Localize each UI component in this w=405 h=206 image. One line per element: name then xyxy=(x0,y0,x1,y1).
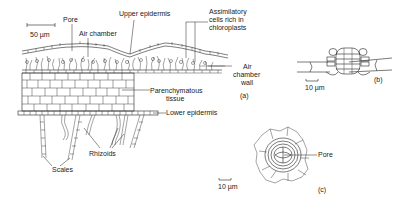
lower-epidermis xyxy=(18,111,158,115)
label-parenchyma-1: Parenchymatous xyxy=(150,87,203,95)
marchantia-thallus-diagram: 50 µm xyxy=(0,0,405,206)
scale-label-a: 50 µm xyxy=(30,31,50,39)
leader-lines-a xyxy=(43,20,232,166)
label-assimilatory-3: chloroplasts xyxy=(209,24,247,32)
label-lower-epidermis: Lower epidermis xyxy=(166,109,218,117)
label-assimilatory-2: cells rich in xyxy=(209,16,244,23)
scale-label-c: 10 µm xyxy=(218,183,238,191)
panel-a: 50 µm xyxy=(18,8,261,173)
scale-label-b: 10 µm xyxy=(305,84,325,92)
label-air-chamber-wall-1: Air xyxy=(243,63,252,70)
upper-epidermis xyxy=(22,41,228,58)
label-rhizoids: Rhizoids xyxy=(89,150,116,157)
scale-bar-a: 50 µm xyxy=(27,23,55,39)
panel-b-id: (b) xyxy=(374,76,383,84)
label-air-chamber-wall-3: wall xyxy=(240,79,254,86)
panel-c-id: (c) xyxy=(318,186,326,194)
label-scales: Scales xyxy=(52,166,74,173)
scale-bar-c: 10 µm xyxy=(218,178,238,191)
panel-b: 10 µm (b) xyxy=(297,48,392,92)
panel-c: Pore 10 µm (c) xyxy=(218,127,333,194)
parenchymatous-tissue xyxy=(22,73,134,111)
label-pore: Pore xyxy=(63,16,78,23)
label-air-chamber-wall-2: chamber xyxy=(233,71,261,78)
panel-a-id: (a) xyxy=(240,92,249,100)
label-upper-epidermis: Upper epidermis xyxy=(119,10,171,18)
label-assimilatory-1: Assimilatory xyxy=(209,8,247,16)
scale-bar-b: 10 µm xyxy=(305,79,325,92)
label-parenchyma-2: tissue xyxy=(166,95,184,102)
label-pore-c: Pore xyxy=(318,151,333,158)
assimilatory-filaments xyxy=(26,56,214,70)
label-air-chamber: Air chamber xyxy=(79,30,117,37)
